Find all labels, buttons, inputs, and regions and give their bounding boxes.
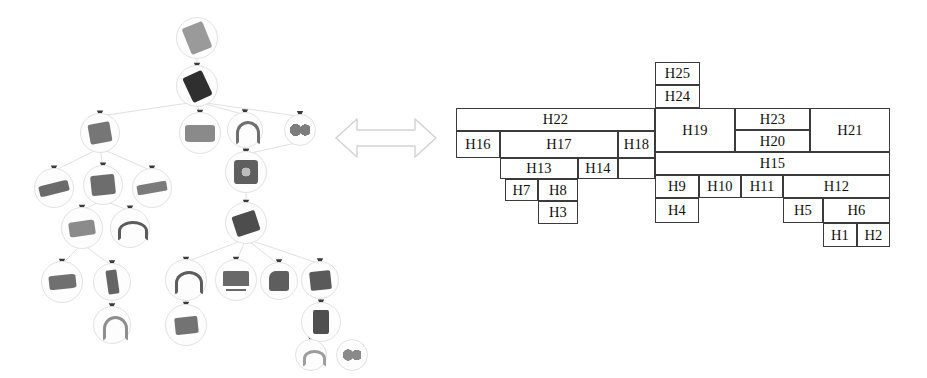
block-h3: H3 <box>538 201 578 224</box>
block-h8: H8 <box>538 179 578 201</box>
block-h11: H11 <box>741 175 783 198</box>
block-h17: H17 <box>500 131 618 158</box>
block-h24: H24 <box>655 85 700 108</box>
block-h1: H1 <box>823 223 857 247</box>
block-h9: H9 <box>655 175 699 198</box>
block-h15: H15 <box>655 152 890 175</box>
block-h20: H20 <box>735 130 810 152</box>
figure-root: H25H24H22H16H17H18H19H23H20H21H13H14H15H… <box>0 0 927 378</box>
block-h12: H12 <box>783 175 890 198</box>
block-h10: H10 <box>699 175 741 198</box>
block-h22: H22 <box>456 108 655 131</box>
block-h21: H21 <box>810 108 890 152</box>
h-block-adjacency-layout: H25H24H22H16H17H18H19H23H20H21H13H14H15H… <box>0 0 927 378</box>
block-h23: H23 <box>735 108 810 130</box>
block-h6: H6 <box>823 198 890 223</box>
block-h18: H18 <box>618 131 655 158</box>
block-h25: H25 <box>655 62 700 85</box>
block-empty <box>618 158 655 179</box>
block-h19: H19 <box>655 108 735 152</box>
block-h16: H16 <box>456 131 500 158</box>
block-h5: H5 <box>783 198 823 223</box>
block-h7: H7 <box>505 179 538 201</box>
block-h4: H4 <box>655 198 699 223</box>
block-h14: H14 <box>578 158 618 179</box>
block-h2: H2 <box>857 223 890 247</box>
block-h13: H13 <box>500 158 578 179</box>
